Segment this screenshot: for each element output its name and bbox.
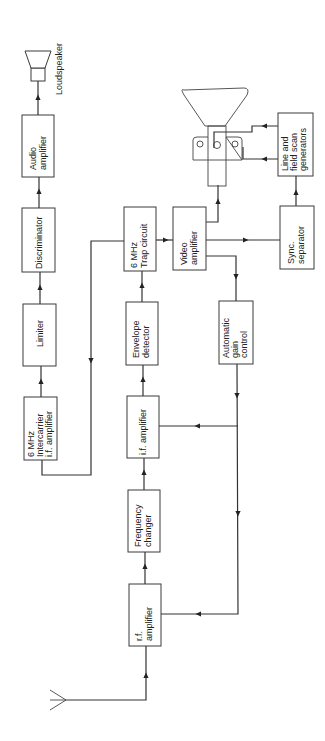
block-discriminator: Discriminator — [22, 208, 55, 272]
signal-arrows — [35, 95, 298, 679]
loudspeaker-label: Loudspeaker — [54, 43, 64, 95]
block-line-field-scan-generators: Line and field scan generators — [278, 113, 313, 176]
svg-text:Limiter: Limiter — [35, 320, 45, 347]
svg-text:Discriminator: Discriminator — [34, 216, 44, 269]
block-envelope-detector: Envelope detector — [126, 302, 158, 365]
svg-text:Line and field scan: Line and field scan generators — [280, 127, 308, 171]
block-limiter: Limiter — [23, 304, 56, 366]
block-trap-circuit: 6 MHz Trap circuit — [124, 207, 156, 271]
cathode-ray-tube-icon — [182, 88, 248, 186]
block-frequency-changer: Frequency changer — [128, 490, 160, 552]
loudspeaker-icon — [25, 51, 51, 81]
block-rf-amplifier: r.f. amplifier — [129, 584, 161, 646]
block-intercarrier-if-amplifier: 6 MHz Intercarrier i.f. amplifier — [24, 397, 57, 460]
connection-wires — [38, 81, 296, 700]
block-if-amplifier: i.f. amplifier — [127, 396, 159, 458]
svg-text:i.f. amplifier: i.f. amplifier — [138, 409, 148, 455]
antenna-icon — [50, 690, 66, 710]
block-audio-amplifier: Audio amplifier — [22, 115, 54, 177]
block-sync-separator: Sync. separator — [280, 206, 314, 269]
block-video-amplifier: Video amplifier — [173, 207, 206, 270]
tv-receiver-block-diagram: Loudspeaker Audio amplifier Discriminato… — [0, 0, 325, 741]
block-automatic-gain-control: Automatic gain control — [219, 301, 253, 364]
